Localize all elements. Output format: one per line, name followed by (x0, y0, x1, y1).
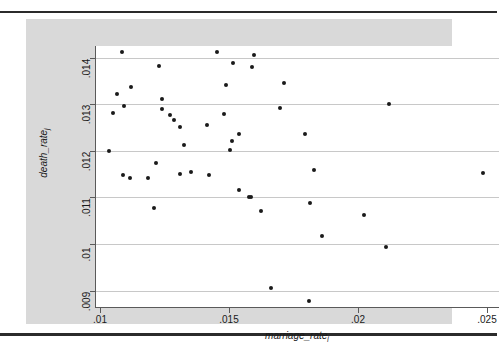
scatter-point (215, 50, 219, 54)
scatter-point (207, 173, 211, 177)
scatter-point (178, 172, 182, 176)
scatter-point (224, 83, 228, 87)
plot-area (95, 46, 499, 307)
scatter-point (129, 85, 133, 89)
gridline (95, 291, 499, 292)
stata-graph-region: .009.01.011.012.013.014 .01.015.02.025 d… (26, 19, 452, 324)
axis-title-subscript: j (327, 335, 329, 342)
axis-title-text: death_rate (38, 130, 49, 178)
x-axis-line (95, 307, 499, 308)
y-tick-label: .01 (81, 243, 92, 267)
y-tick-label: .012 (81, 150, 92, 174)
gridline (95, 104, 499, 105)
scatter-point (154, 161, 158, 165)
scatter-point (205, 123, 209, 127)
y-tick-label: .011 (81, 196, 92, 220)
scatter-point (222, 112, 226, 116)
y-axis-line (95, 46, 96, 308)
scatter-point (303, 132, 307, 136)
scatter-point (178, 125, 182, 129)
scatter-point (384, 245, 388, 249)
x-tick-label: .025 (464, 314, 503, 325)
gridline (95, 58, 499, 59)
x-tick-mark (229, 308, 230, 313)
x-tick-mark (487, 308, 488, 313)
page-rule-top (0, 11, 497, 13)
x-axis-title: marriage_ratej (95, 330, 499, 342)
scatter-point (121, 173, 125, 177)
scatter-point (160, 97, 164, 101)
y-tick-label: .013 (81, 103, 92, 127)
gridline (95, 151, 499, 152)
x-tick-mark (100, 308, 101, 313)
scatter-point (259, 209, 263, 213)
scatter-point (152, 206, 156, 210)
y-axis-title: death_ratej (38, 93, 50, 213)
scatter-point (182, 143, 186, 147)
axis-title-text: marriage_rate (265, 330, 327, 341)
axis-title-subscript: j (43, 128, 50, 130)
scatter-point (278, 106, 282, 110)
scatter-point (320, 234, 324, 238)
y-tick-label: .009 (81, 290, 92, 314)
x-tick-label: .02 (335, 314, 381, 325)
gridline (95, 197, 499, 198)
x-tick-mark (358, 308, 359, 313)
scatter-point (362, 213, 366, 217)
scatter-point (120, 50, 124, 54)
scatter-point (250, 65, 254, 69)
scatter-point (308, 201, 312, 205)
x-tick-label: .015 (206, 314, 252, 325)
y-tick-label: .014 (81, 57, 92, 81)
scatter-point (481, 171, 485, 175)
x-tick-label: .01 (77, 314, 123, 325)
scatter-point (157, 64, 161, 68)
scatter-point (387, 102, 391, 106)
scatter-point (111, 111, 115, 115)
gridline (95, 244, 499, 245)
scatter-point (230, 139, 234, 143)
